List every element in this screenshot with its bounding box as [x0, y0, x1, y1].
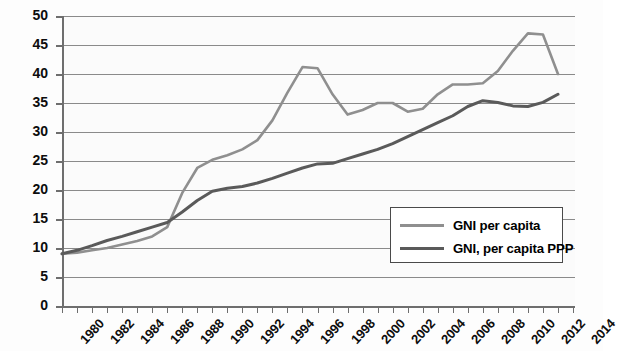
x-axis-label-1984: 1984: [137, 316, 167, 347]
x-axis-label-2010: 2010: [528, 316, 558, 347]
x-axis-label-1998: 1998: [347, 316, 377, 347]
y-axis-label-15: 15: [2, 210, 48, 226]
x-axis-label-2002: 2002: [408, 316, 438, 347]
x-axis-label-1988: 1988: [197, 316, 227, 347]
x-axis-label-2008: 2008: [498, 316, 528, 347]
x-axis-label-1994: 1994: [287, 316, 317, 347]
legend-swatch-gni-per-capita: [400, 224, 444, 227]
y-axis-label-40: 40: [2, 65, 48, 81]
y-axis-label-30: 30: [2, 123, 48, 139]
y-axis-label-25: 25: [2, 152, 48, 168]
x-axis-label-2014: 2014: [588, 316, 618, 347]
x-axis-label-1982: 1982: [107, 316, 137, 347]
x-axis-label-2006: 2006: [468, 316, 498, 347]
x-axis-label-1996: 1996: [317, 316, 347, 347]
y-axis-label-45: 45: [2, 36, 48, 52]
legend-swatch-gni-per-capita-ppp: [400, 247, 444, 250]
chart-legend: GNI per capita GNI, per capita PPP: [390, 207, 563, 263]
x-axis-label-1992: 1992: [257, 316, 287, 347]
x-axis-label-2004: 2004: [438, 316, 468, 347]
legend-label-gni-per-capita-ppp: GNI, per capita PPP: [453, 241, 573, 256]
x-axis-label-2012: 2012: [558, 316, 588, 347]
legend-item-1: GNI, per capita PPP: [400, 239, 573, 257]
x-axis-label-1990: 1990: [227, 316, 257, 347]
legend-label-gni-per-capita: GNI per capita: [453, 218, 540, 233]
x-axis-label-1986: 1986: [167, 316, 197, 347]
y-axis-label-20: 20: [2, 181, 48, 197]
y-axis-label-0: 0: [2, 297, 48, 313]
y-axis-label-50: 50: [2, 7, 48, 23]
x-axis-label-1980: 1980: [77, 316, 107, 347]
y-axis-label-5: 5: [2, 268, 48, 284]
y-axis-label-10: 10: [2, 239, 48, 255]
legend-item-0: GNI per capita: [400, 216, 540, 234]
y-axis-label-35: 35: [2, 94, 48, 110]
x-axis-label-2000: 2000: [378, 316, 408, 347]
